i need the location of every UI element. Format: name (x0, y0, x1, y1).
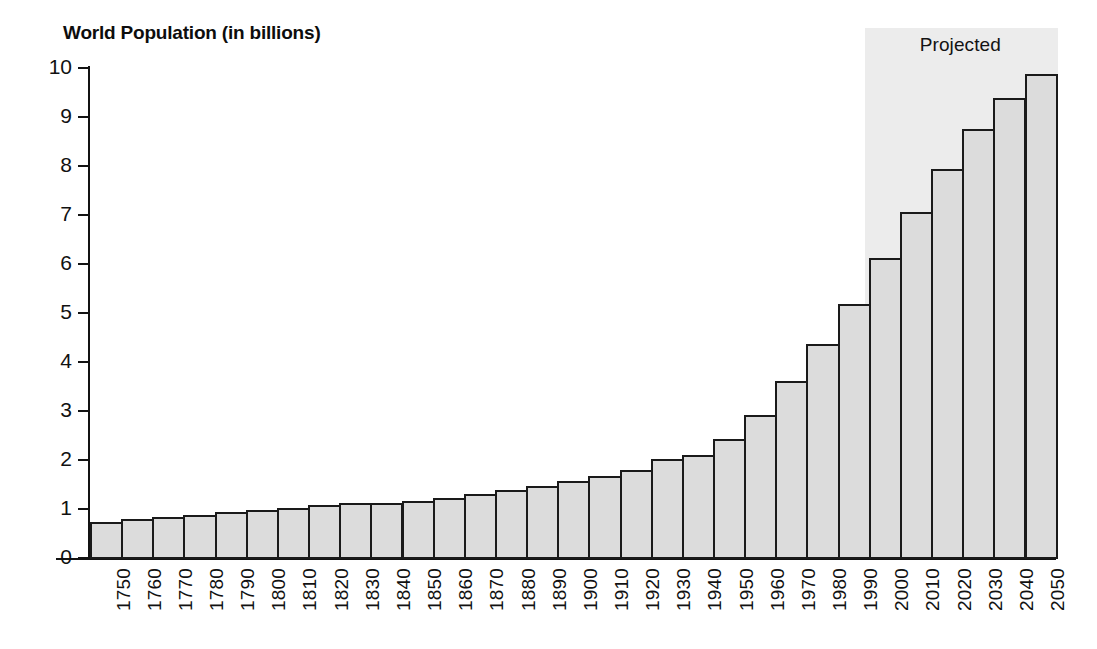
world-population-bar-chart: World Population (in billions) 109876543… (0, 0, 1097, 649)
x-axis-tick-label: 1880 (518, 568, 540, 611)
x-axis-tick-label: 1990 (860, 568, 882, 611)
y-axis-tick (78, 361, 90, 363)
y-axis-tick-label: 6 (14, 251, 72, 275)
x-axis-tick-label: 1870 (486, 568, 508, 611)
x-axis-tick-label: 1840 (393, 568, 415, 611)
bar (433, 498, 466, 559)
bar (183, 515, 216, 559)
bar (682, 455, 715, 559)
bar (495, 490, 528, 559)
bar (557, 481, 590, 559)
plot-area: Projected (90, 68, 1055, 559)
bar (931, 169, 964, 559)
bar (962, 129, 995, 559)
x-axis-tick-label: 1910 (611, 568, 633, 611)
x-axis-tick-label: 1900 (580, 568, 602, 611)
bar (1025, 74, 1058, 559)
bar (152, 517, 185, 559)
y-axis-tick (78, 67, 90, 69)
y-axis-tick (78, 557, 90, 559)
bar (651, 459, 684, 559)
x-axis-tick-label: 1860 (455, 568, 477, 611)
projected-annotation-label: Projected (920, 34, 1001, 56)
bar (526, 486, 559, 559)
bar (370, 503, 403, 559)
x-axis-tick-label: 1770 (175, 568, 197, 611)
bar (308, 505, 341, 559)
x-axis-tick-label: 1750 (113, 568, 135, 611)
bar (775, 381, 808, 559)
y-axis-tick (78, 116, 90, 118)
y-axis-tick (78, 459, 90, 461)
x-axis-tick-label: 2050 (1047, 568, 1069, 611)
x-axis-tick-label: 1800 (268, 568, 290, 611)
y-axis-tick-label: 8 (14, 153, 72, 177)
x-axis-tick-label: 1920 (642, 568, 664, 611)
x-axis-tick-label: 1930 (673, 568, 695, 611)
y-axis-tick-label: 2 (14, 447, 72, 471)
bar (620, 470, 653, 559)
x-axis-tick-label: 1970 (798, 568, 820, 611)
x-axis-tick-label: 1810 (299, 568, 321, 611)
y-axis-tick-label: 5 (14, 300, 72, 324)
y-axis-tick-label: 9 (14, 104, 72, 128)
bar (464, 494, 497, 559)
bar (121, 519, 154, 559)
bar (277, 508, 310, 559)
y-axis-tick-label: 4 (14, 349, 72, 373)
bar (402, 501, 435, 559)
y-axis-tick-label: 3 (14, 398, 72, 422)
bar (869, 258, 902, 559)
x-axis-tick-label: 1830 (362, 568, 384, 611)
bar (900, 212, 933, 559)
bar (339, 503, 372, 559)
y-axis-tick-label: 0 (14, 545, 72, 569)
y-axis-tick (78, 508, 90, 510)
x-axis-tick-label: 1850 (424, 568, 446, 611)
x-axis-tick-label: 2000 (891, 568, 913, 611)
bar (215, 512, 248, 559)
bar (993, 98, 1026, 559)
x-axis-tick-label: 1790 (237, 568, 259, 611)
bar (838, 304, 871, 559)
x-axis-tick-label: 1950 (736, 568, 758, 611)
x-axis-tick-label: 2030 (985, 568, 1007, 611)
x-axis-tick-label: 1960 (767, 568, 789, 611)
chart-title: World Population (in billions) (63, 22, 321, 44)
x-axis-tick-label: 1820 (331, 568, 353, 611)
y-axis-tick-label: 1 (14, 496, 72, 520)
x-axis-tick-label: 1940 (704, 568, 726, 611)
x-axis-tick-label: 1760 (144, 568, 166, 611)
x-axis-tick-label: 1980 (829, 568, 851, 611)
bar (744, 415, 777, 559)
x-axis-tick-label: 1780 (206, 568, 228, 611)
bar (713, 439, 746, 559)
y-axis-tick-label: 10 (14, 55, 72, 79)
x-axis-tick-label: 2010 (922, 568, 944, 611)
y-axis-tick (78, 165, 90, 167)
y-axis-tick (78, 214, 90, 216)
y-axis-tick-label: 7 (14, 202, 72, 226)
x-axis-tick-label: 2040 (1016, 568, 1038, 611)
y-axis-tick (78, 410, 90, 412)
bar (588, 476, 621, 559)
bar (806, 344, 839, 559)
y-axis-tick (78, 263, 90, 265)
bar (246, 510, 279, 559)
x-axis-tick-label: 2020 (954, 568, 976, 611)
x-axis-tick-label: 1890 (549, 568, 571, 611)
y-axis-tick (78, 312, 90, 314)
bar (90, 522, 123, 559)
